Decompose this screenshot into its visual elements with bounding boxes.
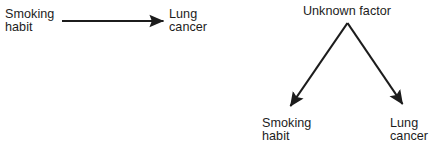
node-smoking-habit: Smoking habit [262,117,311,143]
figure-canvas: Smoking habit Lung cancer Unknown factor… [0,0,439,152]
common-cause-arrows [0,0,439,152]
arrow-unknown-factor-to-lung-cancer [348,23,403,104]
common-cause-diagram: Unknown factor Smoking habit Lung cancer [0,0,439,152]
arrow-unknown-factor-to-smoking-habit [291,23,348,106]
node-unknown-factor: Unknown factor [303,5,391,18]
node-lung-cancer: Lung cancer [390,117,428,143]
